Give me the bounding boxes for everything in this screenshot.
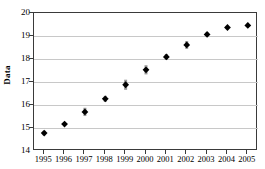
plot-area	[33, 12, 257, 150]
x-tick-label: 2005	[232, 154, 262, 165]
y-axis-tick-labels: 20191817161514	[11, 12, 30, 150]
data-point	[143, 66, 150, 73]
data-point	[82, 109, 89, 116]
x-axis-tick-labels: 1995199619971998199920002001200220032004…	[33, 154, 257, 168]
data-point	[102, 95, 109, 102]
data-points	[41, 22, 251, 136]
data-point	[61, 121, 68, 128]
chart-container: Data 20191817161514 19951996199719981999…	[0, 0, 265, 169]
y-tick-label: 15	[12, 123, 30, 132]
y-tick-label: 18	[12, 54, 30, 63]
data-point	[204, 31, 211, 38]
y-tick-label: 20	[12, 8, 30, 17]
gridlines	[34, 36, 258, 128]
error-bars	[44, 25, 248, 136]
data-point	[183, 42, 190, 49]
data-point	[244, 22, 251, 29]
data-point	[224, 24, 231, 31]
x-axis-ticks	[33, 150, 257, 155]
y-tick-label: 16	[12, 100, 30, 109]
y-axis-title-label: Data	[2, 65, 12, 84]
y-tick-label: 19	[12, 31, 30, 40]
data-point	[41, 130, 48, 137]
y-tick-label: 17	[12, 77, 30, 86]
y-axis-ticks	[29, 12, 34, 150]
plot-svg	[34, 13, 258, 151]
